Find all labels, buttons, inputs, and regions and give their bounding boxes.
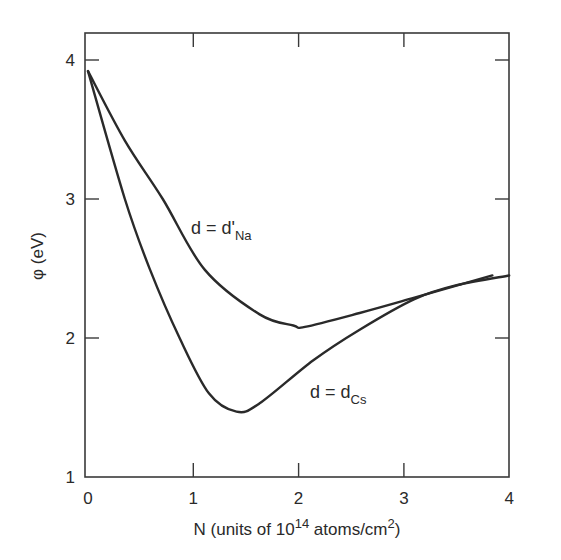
x-tick-label: 0 [83, 489, 92, 508]
x-tick-label: 1 [189, 489, 198, 508]
curve-cs [88, 71, 509, 412]
curve-na [88, 71, 492, 328]
curves [88, 71, 509, 412]
plot-frame [85, 33, 509, 477]
x-tick-label: 3 [399, 489, 408, 508]
y-tick-label: 4 [66, 51, 75, 70]
y-axis-label: φ (eV) [28, 232, 47, 280]
x-tick-label: 4 [504, 489, 513, 508]
work-function-chart: 012341234 d = d'Na d = dCs N (units of 1… [0, 0, 561, 560]
tick-labels: 012341234 [66, 51, 514, 508]
y-tick-label: 2 [66, 329, 75, 348]
x-tick-label: 2 [294, 489, 303, 508]
x-axis-label: N (units of 1014 atoms/cm2) [194, 516, 401, 539]
curve-label-na: d = d'Na [191, 218, 252, 243]
y-tick-label: 3 [66, 190, 75, 209]
curve-label-cs: d = dCs [310, 382, 367, 407]
y-tick-label: 1 [66, 468, 75, 487]
axis-ticks [85, 33, 509, 477]
